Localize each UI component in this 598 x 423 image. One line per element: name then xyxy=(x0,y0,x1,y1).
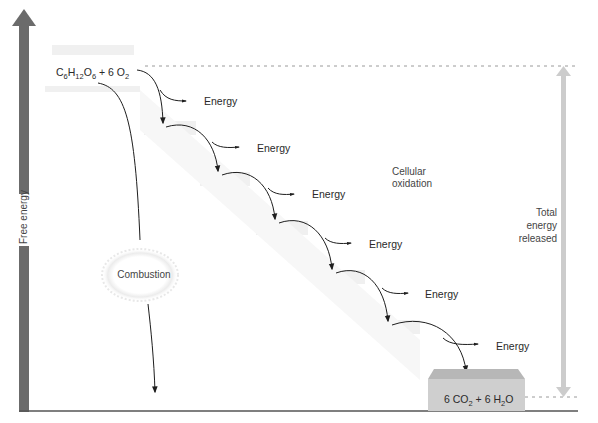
cellular-oxidation-steps xyxy=(137,70,478,371)
total-energy-label-line1: Total xyxy=(536,207,557,218)
energy-label-4: Energy xyxy=(369,238,403,250)
cellular-oxidation-label-line2: oxidation xyxy=(392,178,432,189)
free-energy-diagram: Free energy Total energy released C6H12O… xyxy=(0,0,598,423)
step-1-energy-arrow xyxy=(160,90,186,101)
step-2-energy-arrow xyxy=(212,142,239,147)
arrowhead-down-icon xyxy=(556,387,571,397)
total-energy-arrow xyxy=(556,66,571,397)
energy-label-1: Energy xyxy=(204,95,238,107)
step-5-energy-arrow xyxy=(382,288,408,293)
total-energy-label-line2: energy xyxy=(526,220,557,231)
step-6-energy-arrow xyxy=(443,338,478,344)
combustion-label: Combustion xyxy=(117,269,170,280)
reactants-formula: C6H12O6 + 6 O2 xyxy=(56,66,129,81)
y-axis-bar-upper xyxy=(19,22,29,194)
y-axis-label: Free energy xyxy=(18,190,29,244)
y-axis: Free energy xyxy=(12,9,36,412)
energy-label-3: Energy xyxy=(312,188,346,200)
step-3-energy-arrow xyxy=(268,188,294,194)
products-box: 6 CO2 + 6 H2O xyxy=(428,369,525,411)
energy-label-6: Energy xyxy=(496,340,530,352)
energy-label-2: Energy xyxy=(257,142,291,154)
energy-label-5: Energy xyxy=(425,288,459,300)
y-axis-arrowhead-icon xyxy=(12,9,36,26)
y-axis-bar-lower xyxy=(19,246,29,412)
total-energy-label-line3: released xyxy=(519,233,557,244)
arrowhead-up-icon xyxy=(556,66,571,76)
step-4-energy-arrow xyxy=(325,238,351,243)
cellular-oxidation-label-line1: Cellular xyxy=(392,166,427,177)
